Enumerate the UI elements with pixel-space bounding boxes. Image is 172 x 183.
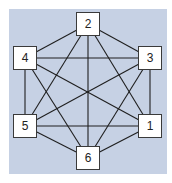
edge-3-6 xyxy=(88,58,150,158)
node-label: 1 xyxy=(147,119,154,133)
node-label: 5 xyxy=(22,119,29,133)
node-label: 6 xyxy=(85,151,92,165)
node-label: 2 xyxy=(85,17,92,31)
edge-2-5 xyxy=(25,24,88,126)
node-1: 1 xyxy=(138,114,162,138)
node-5: 5 xyxy=(13,114,37,138)
node-2: 2 xyxy=(76,12,100,36)
node-label: 4 xyxy=(22,51,29,65)
edge-4-6 xyxy=(25,58,88,158)
node-4: 4 xyxy=(13,46,37,70)
node-6: 6 xyxy=(76,146,100,170)
node-3: 3 xyxy=(138,46,162,70)
node-label: 3 xyxy=(147,51,154,65)
